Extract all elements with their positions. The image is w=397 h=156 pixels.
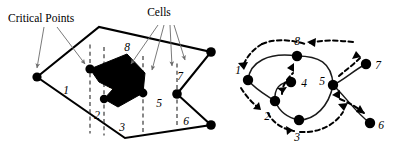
graph-node-5 <box>328 80 338 90</box>
graph-label-7: 7 <box>375 59 382 71</box>
cell-label-2: 2 <box>94 109 100 121</box>
graph-label-6: 6 <box>378 119 384 131</box>
cells-leaders <box>131 25 185 70</box>
traversal-seg-3-to-5 <box>300 112 343 132</box>
critical-point-notch <box>172 89 182 99</box>
traversal-seg-2-to-3 <box>268 113 294 131</box>
edge-5-7 <box>333 64 366 85</box>
boundary-vertex-top-right <box>206 47 216 57</box>
graph-label-3: 3 <box>293 131 300 143</box>
graph-node-8 <box>292 51 302 61</box>
traversal-arrow-down-4 <box>277 87 287 93</box>
cells-label: Cells <box>147 6 171 18</box>
left-panel-cell-decomposition: 1 2 3 4 5 6 7 8 Critical <box>8 6 216 138</box>
graph-node-4 <box>286 77 296 87</box>
cell-label-3: 3 <box>118 121 125 133</box>
critical-point-obstacle-lower <box>100 95 108 103</box>
cell-label-1: 1 <box>63 84 69 96</box>
graph-label-4: 4 <box>301 77 307 89</box>
critical-point-vertex-left <box>32 72 41 81</box>
edge-3-5 <box>299 85 333 120</box>
graph-label-8: 8 <box>294 35 300 47</box>
cell-label-4: 4 <box>109 80 115 92</box>
traversal-seg-1-to-2 <box>241 88 259 108</box>
figure-container: 1 2 3 4 5 6 7 8 Critical <box>0 0 397 156</box>
graph-node-3 <box>294 115 304 125</box>
cell-label-8: 8 <box>124 41 130 53</box>
right-panel-adjacency-graph: 1 2 3 4 5 6 7 8 <box>235 35 384 143</box>
graph-node-6 <box>365 118 375 128</box>
critical-points-leader-1 <box>37 27 44 68</box>
cell-label-5: 5 <box>156 97 162 109</box>
cells-leader-1 <box>131 25 158 64</box>
diagram-canvas: 1 2 3 4 5 6 7 8 Critical <box>0 0 397 156</box>
graph-label-1: 1 <box>235 64 241 76</box>
graph-label-2: 2 <box>264 110 270 122</box>
obstacle-shape <box>90 54 145 107</box>
traversal-arrow-to-8 <box>307 38 316 47</box>
cell-label-6: 6 <box>183 115 189 127</box>
graph-node-2 <box>270 96 280 106</box>
cell-label-7: 7 <box>177 70 184 82</box>
cells-leader-4 <box>174 25 185 60</box>
graph-node-7 <box>361 59 371 69</box>
traversal-seg-5-to-8 <box>310 41 353 43</box>
graph-label-5: 5 <box>319 75 325 87</box>
boundary-vertex-bottom-right <box>206 120 216 130</box>
critical-point-obstacle-right <box>139 89 148 98</box>
critical-points-leaders <box>37 27 85 68</box>
traversal-arrow-to-4 <box>287 63 294 72</box>
critical-points-label: Critical Points <box>8 12 75 24</box>
cells-leader-3 <box>170 25 172 66</box>
traversal-arrow-to-5 <box>338 103 348 111</box>
traversal-arrow-to-3 <box>286 126 293 135</box>
graph-node-1 <box>243 75 253 85</box>
traversal-arrow-at-5 <box>332 90 340 99</box>
traversal-seg-6-to-7 <box>339 58 360 76</box>
graph-nodes-group <box>243 51 375 128</box>
traversal-arrow-to-6 <box>356 105 365 114</box>
critical-point-obstacle-left <box>85 64 94 73</box>
